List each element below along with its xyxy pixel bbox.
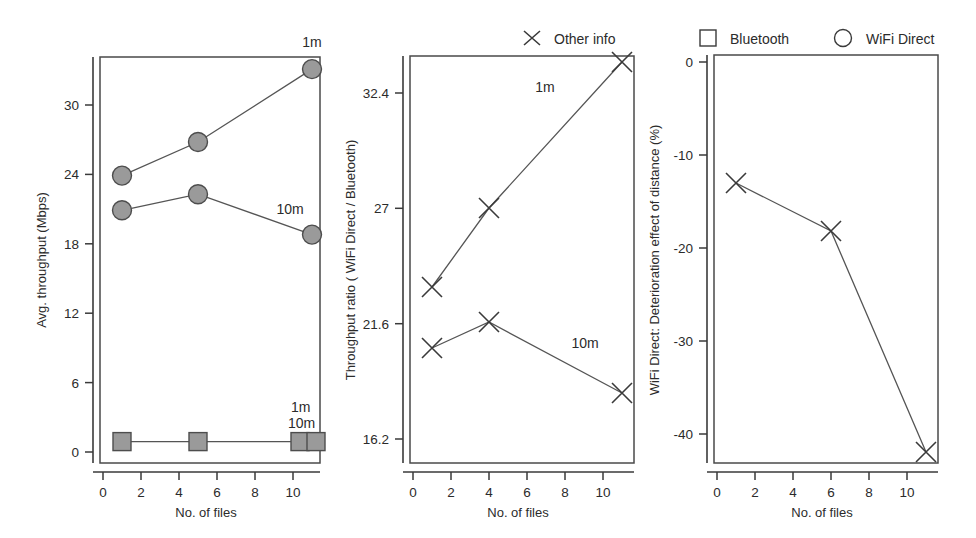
series-deterioration (726, 173, 936, 462)
x-tick-label: 6 (523, 485, 531, 500)
data-point (189, 185, 208, 204)
x-tick-label: 10 (595, 485, 610, 500)
y-tick-label: 6 (71, 376, 79, 391)
x-tick-label: 4 (789, 485, 797, 500)
data-point (113, 166, 132, 185)
x-tick-label: 10 (285, 485, 300, 500)
series-annotation-bt-10m: 10m (288, 415, 315, 431)
series-bluetooth: 1m 10m (113, 399, 325, 451)
legend-item-bluetooth: Bluetooth (700, 30, 789, 47)
y-tick-label: 0 (71, 445, 79, 460)
y-axis-title-left: Avg. throughput (Mbps) (34, 192, 49, 328)
series-ratio-10m: 10m (422, 312, 632, 403)
data-point (113, 433, 131, 451)
legend-item-wifi-direct: WiFi Direct (835, 30, 935, 48)
plot-frame-left (100, 57, 320, 463)
series-annotation-1m: 1m (302, 34, 321, 50)
plot-frame-middle (410, 56, 634, 463)
x-tick-label: 2 (751, 485, 759, 500)
y-ticks-middle (395, 93, 403, 439)
data-point (612, 383, 632, 403)
panel-avg-throughput: 0 6 12 18 24 30 Avg. throughput (Mbps) 0 (34, 34, 325, 520)
x-tick-label: 0 (409, 485, 417, 500)
legend-label-other-info: Other info (554, 31, 616, 47)
y-tick-label: 12 (64, 306, 79, 321)
series-annotation-10m: 10m (276, 201, 303, 217)
cross-icon (524, 31, 540, 45)
figure-panel: Other info Bluetooth WiFi Direct (0, 0, 976, 538)
y-tick-label: 16.2 (363, 432, 389, 447)
x-tick-label: 2 (137, 485, 145, 500)
square-icon (700, 30, 716, 46)
x-tick-label: 4 (175, 485, 183, 500)
data-point (916, 442, 936, 462)
x-tick-label: 8 (251, 485, 259, 500)
series-ratio-1m: 1m (422, 52, 632, 297)
y-ticks-right (699, 62, 707, 434)
y-tick-label: -20 (673, 241, 693, 256)
y-tick-label: -30 (673, 334, 693, 349)
x-tick-label: 6 (213, 485, 221, 500)
x-tick-label: 8 (561, 485, 569, 500)
legend: Other info Bluetooth WiFi Direct (524, 30, 935, 48)
legend-item-other-info: Other info (524, 31, 616, 47)
x-ticks-middle (413, 472, 603, 480)
panel-throughput-ratio: 16.2 21.6 27 32.4 Throughput ratio ( WiF… (343, 52, 634, 520)
series-annotation-1m: 1m (535, 79, 554, 95)
y-tick-labels-right: 0 -10 -20 -30 -40 (673, 55, 693, 442)
y-tick-labels-middle: 16.2 21.6 27 32.4 (363, 86, 390, 447)
y-tick-label: 32.4 (363, 86, 390, 101)
x-tick-label: 6 (827, 485, 835, 500)
y-tick-label: 24 (64, 167, 80, 182)
x-tick-label: 10 (899, 485, 914, 500)
data-point (821, 221, 841, 241)
x-axis-title-left: No. of files (175, 505, 237, 520)
y-tick-label: 27 (374, 201, 389, 216)
legend-label-bluetooth: Bluetooth (730, 31, 789, 47)
x-axis-title-middle: No. of files (487, 505, 549, 520)
y-tick-label: 0 (685, 55, 693, 70)
circle-icon (835, 30, 852, 47)
data-point (189, 433, 207, 451)
three-panel-chart: Other info Bluetooth WiFi Direct (0, 0, 976, 538)
data-point (307, 433, 325, 451)
data-point (422, 277, 442, 297)
series-annotation-bt-1m: 1m (291, 399, 310, 415)
data-point (726, 173, 746, 193)
y-tick-label: 18 (64, 237, 79, 252)
x-tick-label: 8 (865, 485, 873, 500)
series-wifi-direct-10m: 10m (113, 185, 322, 244)
data-point (189, 133, 208, 152)
data-point (113, 201, 132, 220)
data-point (612, 52, 632, 72)
data-point (422, 338, 442, 358)
y-tick-label: -10 (673, 148, 693, 163)
x-tick-labels-right: 0 2 4 6 8 10 (713, 485, 914, 500)
x-tick-label: 4 (485, 485, 493, 500)
panel-deterioration-effect: 0 -10 -20 -30 -40 WiFi Direct: Deteriora… (647, 55, 938, 520)
x-tick-labels-middle: 0 2 4 6 8 10 (409, 485, 610, 500)
data-point (479, 312, 499, 332)
x-axis-title-right: No. of files (791, 505, 853, 520)
series-annotation-10m: 10m (571, 335, 598, 351)
x-tick-label: 0 (99, 485, 107, 500)
x-tick-label: 0 (713, 485, 721, 500)
data-point (479, 198, 499, 218)
y-axis-title-middle: Throughput ratio ( WiFi Direct / Bluetoo… (343, 140, 358, 381)
x-ticks-left (103, 472, 293, 480)
y-tick-label: 30 (64, 98, 79, 113)
legend-label-wifi-direct: WiFi Direct (866, 31, 935, 47)
y-axis-title-right: WiFi Direct: Deterioration effect of dis… (647, 125, 662, 396)
x-ticks-right (717, 472, 907, 480)
y-tick-label: -40 (673, 427, 693, 442)
y-ticks-left (85, 105, 93, 452)
data-point (291, 433, 309, 451)
y-tick-label: 21.6 (363, 317, 389, 332)
x-tick-labels-left: 0 2 4 6 8 10 (99, 485, 300, 500)
x-tick-label: 2 (447, 485, 455, 500)
data-point (303, 60, 322, 79)
y-tick-labels-left: 0 6 12 18 24 30 (64, 98, 80, 460)
data-point (303, 225, 322, 244)
